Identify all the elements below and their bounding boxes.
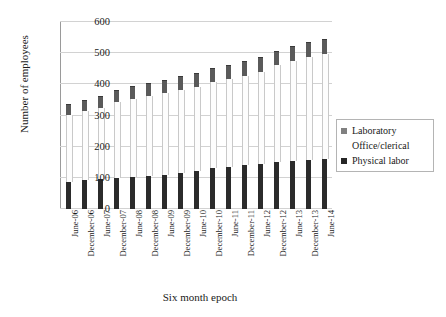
laboratory-swatch-icon <box>341 128 347 134</box>
bar-column[interactable] <box>306 43 311 209</box>
bar-segment-physical-labor[interactable] <box>226 167 231 209</box>
bar-segment-laboratory[interactable] <box>82 100 87 111</box>
bar-segment-laboratory[interactable] <box>194 73 199 87</box>
legend-label-office-clerical: Office/clerical <box>352 141 410 151</box>
x-axis-tick-label: December-09 <box>183 210 192 257</box>
bar-segment-laboratory[interactable] <box>130 86 135 99</box>
bar-segment-office-clerical[interactable] <box>114 102 121 178</box>
x-axis-tick-label: December-12 <box>279 210 288 257</box>
physical-labor-swatch-icon <box>341 158 347 164</box>
bar-column[interactable] <box>258 58 263 209</box>
bar-segment-laboratory[interactable] <box>178 76 183 89</box>
x-axis-tick-label: June-14 <box>327 210 336 237</box>
x-axis-tick-label: June-10 <box>199 210 208 237</box>
bar-segment-office-clerical[interactable] <box>306 57 313 160</box>
bar-column[interactable] <box>194 74 199 209</box>
x-axis-tick-label: December-11 <box>247 210 256 256</box>
bar-segment-office-clerical[interactable] <box>274 65 281 162</box>
y-axis-title: Number of employees <box>18 14 30 154</box>
y-axis-tick-label: 100 <box>70 173 110 183</box>
x-axis-tick-label: December-10 <box>215 210 224 257</box>
bar-segment-office-clerical[interactable] <box>210 82 217 168</box>
bar-segment-physical-labor[interactable] <box>290 161 295 209</box>
chart-container: Number of employees 0100200300400500600 … <box>0 0 446 317</box>
bar-segment-physical-labor[interactable] <box>162 175 167 209</box>
x-axis-tick-label: June-12 <box>263 210 272 237</box>
x-axis-tick-label: December-07 <box>119 210 128 257</box>
x-axis-tick-label: December-08 <box>151 210 160 257</box>
y-axis-tick-label: 200 <box>70 142 110 152</box>
x-axis-tick-labels: June-06December-06June-07December-07June… <box>60 210 332 288</box>
bar-segment-office-clerical[interactable] <box>130 99 137 177</box>
bar-segment-laboratory[interactable] <box>322 39 327 54</box>
x-axis-tick-label: December-13 <box>311 210 320 257</box>
bar-segment-laboratory[interactable] <box>98 96 103 108</box>
bar-column[interactable] <box>130 87 135 209</box>
legend-item-physical-labor: Physical labor <box>341 153 430 168</box>
bar-segment-laboratory[interactable] <box>162 80 167 93</box>
chart-legend: Laboratory Office/clerical Physical labo… <box>336 119 434 172</box>
bar-segment-physical-labor[interactable] <box>258 164 263 209</box>
bar-segment-physical-labor[interactable] <box>306 160 311 209</box>
legend-label-laboratory: Laboratory <box>352 126 396 136</box>
x-axis-tick-label: June-09 <box>167 210 176 237</box>
bar-column[interactable] <box>210 69 215 209</box>
bar-segment-office-clerical[interactable] <box>290 61 297 161</box>
bar-segment-office-clerical[interactable] <box>146 96 153 176</box>
bar-segment-laboratory[interactable] <box>274 51 279 65</box>
office-clerical-swatch-icon <box>341 143 347 149</box>
bar-segment-physical-labor[interactable] <box>322 159 327 209</box>
x-axis-tick-label: June-07 <box>103 210 112 237</box>
bar-segment-office-clerical[interactable] <box>322 54 329 159</box>
x-axis-title: Six month epoch <box>0 291 400 303</box>
legend-label-physical-labor: Physical labor <box>352 156 409 166</box>
bar-segment-laboratory[interactable] <box>114 90 119 102</box>
x-axis-tick-label: June-08 <box>135 210 144 237</box>
bar-column[interactable] <box>242 62 247 209</box>
bar-column[interactable] <box>290 47 295 209</box>
bar-segment-physical-labor[interactable] <box>194 171 199 209</box>
x-axis-tick-label: June-13 <box>295 210 304 237</box>
bar-column[interactable] <box>322 40 327 209</box>
bar-column[interactable] <box>274 52 279 209</box>
bar-segment-physical-labor[interactable] <box>130 177 135 209</box>
bar-segment-physical-labor[interactable] <box>114 178 119 209</box>
bar-segment-physical-labor[interactable] <box>242 165 247 209</box>
x-axis-tick-label: June-06 <box>71 210 80 237</box>
y-axis-tick-label: 400 <box>70 79 110 89</box>
bar-segment-laboratory[interactable] <box>242 61 247 75</box>
y-axis-tick-label: 600 <box>70 17 110 27</box>
bar-segment-laboratory[interactable] <box>258 57 263 71</box>
bar-segment-office-clerical[interactable] <box>226 79 233 167</box>
x-axis-tick-label: December-06 <box>87 210 96 257</box>
bar-segment-laboratory[interactable] <box>146 83 151 96</box>
bar-column[interactable] <box>226 66 231 209</box>
bar-column[interactable] <box>146 84 151 209</box>
bar-segment-office-clerical[interactable] <box>242 76 249 166</box>
bar-segment-physical-labor[interactable] <box>274 162 279 209</box>
bar-segment-office-clerical[interactable] <box>178 90 185 174</box>
y-axis-tick-label: 500 <box>70 48 110 58</box>
bar-segment-laboratory[interactable] <box>290 46 295 61</box>
bar-segment-physical-labor[interactable] <box>210 168 215 209</box>
bar-segment-laboratory[interactable] <box>306 42 311 57</box>
bar-column[interactable] <box>162 81 167 209</box>
bar-segment-laboratory[interactable] <box>226 65 231 79</box>
legend-item-office-clerical: Office/clerical <box>341 138 430 153</box>
bar-segment-physical-labor[interactable] <box>146 176 151 209</box>
bar-segment-laboratory[interactable] <box>210 68 215 82</box>
bar-segment-office-clerical[interactable] <box>162 93 169 175</box>
x-axis-tick-label: June-11 <box>231 210 240 237</box>
bar-column[interactable] <box>178 77 183 209</box>
legend-item-laboratory: Laboratory <box>341 123 430 138</box>
bar-segment-office-clerical[interactable] <box>258 72 265 164</box>
bar-column[interactable] <box>114 91 119 209</box>
y-axis-tick-label: 300 <box>70 111 110 121</box>
bar-segment-physical-labor[interactable] <box>178 173 183 209</box>
bar-segment-office-clerical[interactable] <box>194 87 201 171</box>
